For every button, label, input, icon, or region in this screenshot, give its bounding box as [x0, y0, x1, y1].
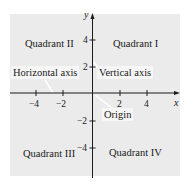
horizontal-axis-callout: Horizontal axis: [11, 66, 79, 79]
quadrant-4-label: Quadrant IV: [109, 147, 162, 159]
x-tick-label: −2: [56, 99, 66, 109]
x-tick-label: 4: [144, 99, 149, 109]
x-axis-arrow-icon: [174, 91, 180, 95]
y-tick-label: 2: [83, 62, 88, 72]
horizontal-axis-pointer: [45, 80, 53, 93]
quadrant-2-label: Quadrant II: [25, 38, 74, 50]
origin-callout: Origin: [102, 108, 133, 121]
quadrant-1-label: Quadrant I: [113, 38, 158, 50]
vertical-axis-callout: Vertical axis: [97, 66, 153, 79]
y-axis-label: y: [84, 10, 88, 20]
origin-pointer: [95, 95, 112, 108]
y-axis-arrow-icon: [91, 13, 95, 19]
quadrant-3-label: Quadrant III: [23, 148, 75, 160]
x-axis-label: x: [174, 98, 178, 108]
y-tick-label: −2: [77, 116, 87, 126]
x-tick-label: −4: [29, 99, 39, 109]
y-tick-label: 4: [83, 35, 88, 45]
y-tick-label: −4: [77, 143, 87, 153]
